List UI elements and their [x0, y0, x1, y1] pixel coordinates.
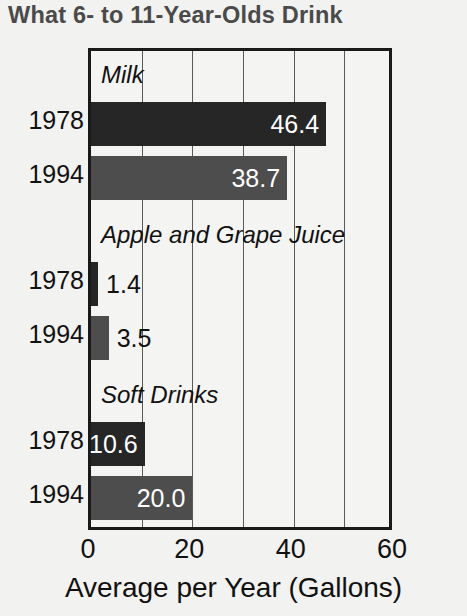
group-label-apple-and-grape-juice: Apple and Grape Juice — [101, 223, 345, 247]
y-axis-tick-label: 1994 — [2, 322, 84, 347]
bar: 10.6 — [91, 422, 145, 466]
y-axis-tick-label: 1978 — [2, 268, 84, 293]
bar-value-label: 38.7 — [231, 166, 280, 191]
y-axis-tick-label: 1978 — [2, 108, 84, 133]
group-label-milk: Milk — [101, 63, 144, 87]
bar — [91, 262, 98, 306]
x-axis-tick-label: 20 — [174, 536, 204, 563]
bar-value-label: 1.4 — [106, 272, 141, 297]
bar — [91, 316, 109, 360]
bar-value-label: 3.5 — [117, 326, 152, 351]
x-axis-tick-label: 0 — [80, 536, 95, 563]
x-axis-label: Average per Year (Gallons) — [0, 572, 467, 604]
bars-layer: 46.438.71.43.510.620.0 — [91, 51, 389, 527]
group-label-soft-drinks: Soft Drinks — [101, 383, 218, 407]
bar: 46.4 — [91, 102, 326, 146]
bar-value-label: 46.4 — [270, 112, 319, 137]
y-axis-tick-label: 1978 — [2, 428, 84, 453]
page-title: What 6- to 11-Year-Olds Drink — [8, 2, 463, 29]
y-axis-tick-label: 1994 — [2, 162, 84, 187]
y-axis-tick-label: 1994 — [2, 482, 84, 507]
x-axis-tick-label: 40 — [276, 536, 306, 563]
y-axis-tick-labels: 197819941978199419781994 — [0, 48, 84, 530]
bar-value-label: 20.0 — [137, 486, 186, 511]
bar: 20.0 — [91, 476, 192, 520]
chart-container: What 6- to 11-Year-Olds Drink 1978199419… — [0, 0, 467, 616]
x-axis-tick-labels: 0204060 — [88, 536, 392, 570]
x-axis-tick-label: 60 — [377, 536, 407, 563]
bar: 38.7 — [91, 156, 287, 200]
plot-area: 46.438.71.43.510.620.0 MilkApple and Gra… — [88, 48, 392, 530]
bar-value-label: 10.6 — [89, 432, 138, 457]
